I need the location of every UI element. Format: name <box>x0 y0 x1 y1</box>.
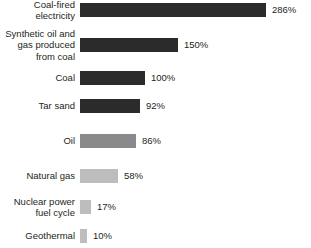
value-label: 150% <box>178 39 208 51</box>
value-label: 10% <box>87 230 112 242</box>
bar <box>80 229 87 243</box>
chart-row: Nuclear power fuel cycle17% <box>0 200 311 214</box>
value-label: 286% <box>266 4 296 16</box>
value-label: 86% <box>136 135 161 147</box>
bar-area: 92% <box>80 99 311 113</box>
bar <box>80 3 266 17</box>
category-label: Natural gas <box>0 170 80 182</box>
bar <box>80 134 136 148</box>
bar-area: 86% <box>80 134 311 148</box>
value-label: 100% <box>145 72 175 84</box>
value-label: 58% <box>118 170 143 182</box>
chart-row: Coal100% <box>0 71 311 85</box>
category-label: Nuclear power fuel cycle <box>0 196 80 219</box>
chart-row: Geothermal10% <box>0 229 311 243</box>
chart-row: Oil86% <box>0 134 311 148</box>
category-label: Coal <box>0 72 80 84</box>
bar <box>80 169 118 183</box>
chart-row: Synthetic oil and gas produced from coal… <box>0 38 311 52</box>
category-label: Oil <box>0 135 80 147</box>
value-label: 92% <box>140 100 165 112</box>
value-label: 17% <box>91 201 116 213</box>
bar-area: 100% <box>80 71 311 85</box>
bar <box>80 99 140 113</box>
bar <box>80 200 91 214</box>
bar <box>80 38 178 52</box>
bar <box>80 71 145 85</box>
bar-area: 150% <box>80 38 311 52</box>
category-label: Tar sand <box>0 100 80 112</box>
bar-area: 58% <box>80 169 311 183</box>
category-label: Coal-fired electricity <box>0 0 80 22</box>
bar-area: 286% <box>80 3 311 17</box>
bar-area: 17% <box>80 200 311 214</box>
category-label: Synthetic oil and gas produced from coal <box>0 28 80 63</box>
category-label: Geothermal <box>0 230 80 242</box>
bar-area: 10% <box>80 229 311 243</box>
chart-row: Natural gas58% <box>0 169 311 183</box>
horizontal-bar-chart: Coal-fired electricity286%Synthetic oil … <box>0 0 311 248</box>
chart-row: Tar sand92% <box>0 99 311 113</box>
chart-row: Coal-fired electricity286% <box>0 3 311 17</box>
